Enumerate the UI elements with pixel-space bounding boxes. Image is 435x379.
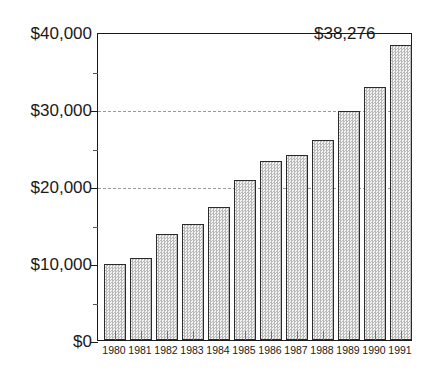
y-axis-tick-label: $10,000 (31, 256, 92, 273)
y-axis-tick-label: $30,000 (31, 102, 92, 119)
bar (208, 207, 230, 340)
y-axis-tick-label: $20,000 (31, 179, 92, 196)
x-axis-tick-label: 1980 (101, 345, 127, 356)
x-axis-tick (297, 331, 298, 340)
bar (390, 45, 412, 340)
bar (234, 180, 256, 340)
y-axis-major-tick (91, 188, 98, 189)
x-axis-tick-label: 1984 (205, 345, 231, 356)
bar (260, 161, 282, 340)
x-axis-tick-label: 1989 (335, 345, 361, 356)
y-axis-tick-label: $0 (73, 333, 92, 350)
x-axis-tick (167, 331, 168, 340)
data-label-1991: $38,276 (314, 25, 375, 42)
y-axis-tick-label: $40,000 (31, 25, 92, 42)
x-axis-tick-label: 1987 (283, 345, 309, 356)
x-axis-tick-label: 1981 (127, 345, 153, 356)
x-axis-tick-label: 1991 (387, 345, 413, 356)
bar-chart: $0$10,000$20,000$30,000$40,000 198019811… (0, 0, 435, 379)
x-axis-tick-label: 1983 (179, 345, 205, 356)
x-axis-tick (141, 331, 142, 340)
bar (182, 224, 204, 340)
y-axis-major-tick (91, 342, 98, 343)
x-axis-tick (245, 331, 246, 340)
x-axis-tick-label: 1986 (257, 345, 283, 356)
x-axis-tick-label: 1988 (309, 345, 335, 356)
x-axis-tick-label: 1985 (231, 345, 257, 356)
x-axis-tick (401, 331, 402, 340)
x-axis-tick (219, 331, 220, 340)
bar (286, 155, 308, 340)
bar (312, 140, 334, 340)
y-axis-labels: $0$10,000$20,000$30,000$40,000 (0, 0, 92, 379)
x-axis-tick (115, 331, 116, 340)
bar (104, 264, 126, 340)
x-axis-labels: 1980198119821983198419851986198719881989… (97, 345, 412, 365)
x-axis-tick (349, 331, 350, 340)
x-axis-tick (323, 331, 324, 340)
x-axis-tick-label: 1990 (361, 345, 387, 356)
y-axis-major-tick (91, 111, 98, 112)
bar (156, 234, 178, 340)
x-axis-tick-label: 1982 (153, 345, 179, 356)
x-axis-tick (271, 331, 272, 340)
x-axis-tick (193, 331, 194, 340)
bar (338, 111, 360, 340)
bar (130, 258, 152, 340)
plot-area (97, 33, 412, 341)
y-axis-major-tick (91, 265, 98, 266)
bar (364, 87, 386, 340)
x-axis-tick (375, 331, 376, 340)
bars-layer (98, 34, 411, 340)
